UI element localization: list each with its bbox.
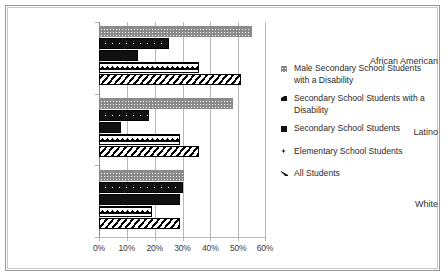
bar-african-american-elementary[interactable] — [99, 62, 199, 73]
bar-latino-male-secondary-disability[interactable] — [99, 98, 233, 109]
gridline-50 — [238, 22, 239, 237]
legend-swatch-secondary-disability-icon — [281, 96, 287, 101]
bar-african-american-secondary[interactable] — [99, 50, 138, 61]
x-tick-60 — [265, 237, 266, 241]
gridline-30 — [183, 22, 184, 237]
legend-swatch-elementary-icon — [281, 149, 286, 154]
legend-label-secondary-disability: Secondary School Students with a Disabil… — [294, 93, 425, 115]
y-axis-label-2: White — [415, 199, 438, 209]
x-axis-label-3: 30% — [168, 243, 198, 253]
bar-white-all-students[interactable] — [99, 218, 180, 229]
legend-item-elementary[interactable]: Elementary School Students — [281, 146, 433, 158]
bar-latino-secondary[interactable] — [99, 122, 121, 133]
x-axis-label-4: 40% — [195, 243, 225, 253]
bar-latino-elementary[interactable] — [99, 134, 180, 145]
legend-label-male-secondary-disability: Male Secondary School Students with a Di… — [294, 63, 421, 85]
x-axis-label-5: 50% — [223, 243, 253, 253]
y-tick-2 — [95, 165, 99, 166]
x-axis-label-0: 0% — [84, 243, 114, 253]
y-tick-top — [95, 22, 99, 23]
x-tick-50 — [238, 237, 239, 241]
bar-latino-all-students[interactable] — [99, 146, 199, 157]
legend-label-secondary: Secondary School Students — [294, 123, 400, 133]
x-tick-40 — [210, 237, 211, 241]
legend-item-male-secondary-disability[interactable]: Male Secondary School Students with a Di… — [281, 63, 433, 86]
gridline-60 — [265, 22, 266, 237]
legend-label-elementary: Elementary School Students — [294, 146, 402, 156]
legend-swatch-all-students-icon — [281, 171, 288, 176]
chart-legend: Male Secondary School Students with a Di… — [281, 63, 433, 187]
legend-item-secondary-disability[interactable]: Secondary School Students with a Disabil… — [281, 93, 433, 116]
bar-white-secondary-disability[interactable] — [99, 182, 183, 193]
x-tick-10 — [127, 237, 128, 241]
x-tick-20 — [155, 237, 156, 241]
x-tick-30 — [183, 237, 184, 241]
legend-swatch-secondary-icon — [281, 126, 287, 132]
bar-african-american-male-secondary-disability[interactable] — [99, 26, 252, 37]
bar-white-male-secondary-disability[interactable] — [99, 170, 184, 181]
bar-african-american-secondary-disability[interactable] — [99, 38, 169, 49]
legend-item-secondary[interactable]: Secondary School Students — [281, 123, 433, 135]
plot-area: 0% 10% 20% 30% 40% 50% 60% — [99, 22, 266, 237]
chart-figure: African American Latino White — [0, 0, 447, 279]
bar-white-elementary[interactable] — [99, 206, 152, 217]
x-axis-label-1: 10% — [112, 243, 142, 253]
x-tick-0 — [99, 237, 100, 241]
x-axis-label-6: 60% — [250, 243, 280, 253]
bar-white-secondary[interactable] — [99, 194, 180, 205]
legend-swatch-male-secondary-disability-icon — [281, 66, 287, 72]
x-axis-label-2: 20% — [140, 243, 170, 253]
legend-label-all-students: All Students — [294, 168, 340, 178]
bar-latino-secondary-disability[interactable] — [99, 110, 149, 121]
legend-item-all-students[interactable]: All Students — [281, 168, 433, 180]
y-tick-1 — [95, 94, 99, 95]
gridline-40 — [210, 22, 211, 237]
bar-african-american-all-students[interactable] — [99, 74, 241, 85]
